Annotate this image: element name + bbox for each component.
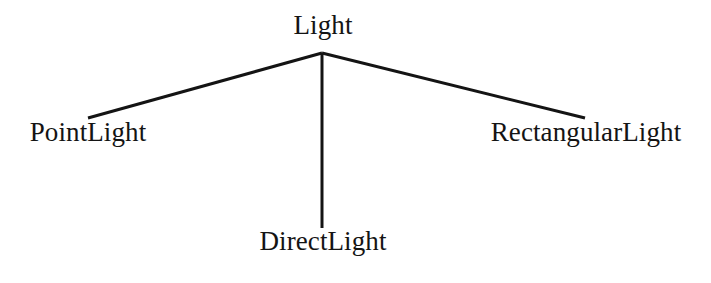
- class-hierarchy-diagram: Light PointLight DirectLight Rectangular…: [0, 0, 711, 283]
- node-label-rectangularlight: RectangularLight: [491, 119, 682, 146]
- node-label-light: Light: [294, 12, 353, 39]
- node-label-pointlight: PointLight: [30, 119, 147, 146]
- node-label-directlight: DirectLight: [259, 228, 386, 255]
- edge-light-to-pointlight: [88, 53, 322, 118]
- edge-light-to-rectangularlight: [322, 53, 585, 118]
